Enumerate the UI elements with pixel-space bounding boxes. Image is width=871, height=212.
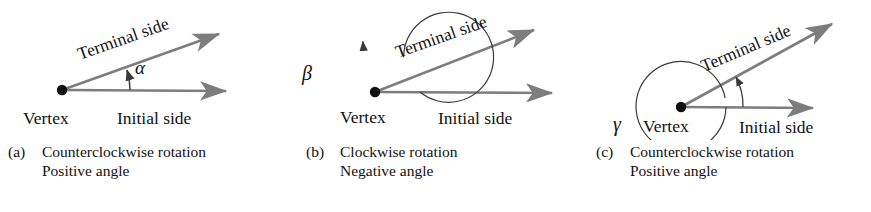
panel-a-caption-line1: Counterclockwise rotation bbox=[42, 142, 206, 161]
vertex-label: Vertex bbox=[643, 116, 689, 136]
panel-b-caption: (b)Clockwise rotation Negative angle bbox=[290, 142, 596, 180]
angle-symbol-beta: β bbox=[301, 62, 312, 85]
vertex-label: Vertex bbox=[23, 108, 69, 128]
vertex-dot bbox=[676, 102, 686, 112]
panel-c-caption: (c)Counterclockwise rotation Positive an… bbox=[580, 142, 871, 180]
initial-side-label: Initial side bbox=[117, 108, 192, 128]
initial-side-ray bbox=[681, 107, 813, 108]
initial-side-ray bbox=[375, 92, 552, 93]
terminal-side-label: Terminal side bbox=[698, 20, 794, 76]
panel-c-caption-line1: Counterclockwise rotation bbox=[630, 142, 794, 161]
panel-b-diagram: Terminal side Vertex Initial side β bbox=[290, 0, 580, 140]
panel-a: Terminal side Vertex Initial side α (a)C… bbox=[0, 0, 290, 212]
initial-side-label: Initial side bbox=[739, 117, 814, 137]
panel-c-diagram: Terminal side Vertex Initial side γ bbox=[580, 0, 870, 140]
panel-a-caption-line2: Positive angle bbox=[42, 161, 129, 180]
panel-b-caption-line1: Clockwise rotation bbox=[340, 142, 458, 161]
panel-a-caption: (a)Counterclockwise rotation Positive an… bbox=[0, 142, 298, 180]
vertex-dot bbox=[370, 87, 380, 97]
angle-symbol-alpha: α bbox=[135, 57, 146, 78]
vertex-dot bbox=[57, 85, 67, 95]
angle-symbol-gamma: γ bbox=[613, 113, 622, 136]
rotation-arc-arrow-segment bbox=[359, 41, 366, 48]
rotation-arc-arrow bbox=[736, 77, 743, 107]
angle-arc bbox=[127, 70, 130, 90]
panel-c-tag: (c) bbox=[596, 142, 630, 161]
angles-figure: Terminal side Vertex Initial side α (a)C… bbox=[0, 0, 871, 212]
panel-b-tag: (b) bbox=[306, 142, 340, 161]
panel-c: Terminal side Vertex Initial side γ (c)C… bbox=[580, 0, 870, 212]
panel-a-diagram: Terminal side Vertex Initial side α bbox=[0, 0, 290, 140]
initial-side-ray bbox=[62, 90, 226, 91]
panel-b: Terminal side Vertex Initial side β (b)C… bbox=[290, 0, 580, 212]
initial-side-label: Initial side bbox=[438, 108, 513, 128]
vertex-label: Vertex bbox=[340, 107, 386, 127]
panel-c-caption-line2: Positive angle bbox=[630, 161, 717, 180]
panel-b-caption-line2: Negative angle bbox=[340, 161, 433, 180]
panel-a-tag: (a) bbox=[8, 142, 42, 161]
